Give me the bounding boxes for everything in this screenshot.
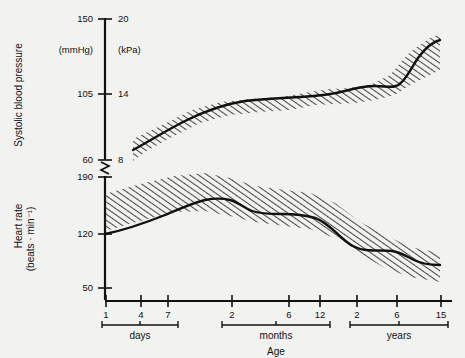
physiology-chart-figure: 150 105 60 20 14 8 (mmHg) (kPa) 190 120 … (0, 0, 465, 358)
xtick-months-12: 12 (315, 309, 326, 320)
xgroup-label-months: months (260, 330, 293, 341)
xgroup-label-days: days (129, 330, 150, 341)
ylabel-heart-rate-units: (beats · min⁻¹) (25, 207, 36, 271)
ytick-hr-120: 120 (77, 228, 93, 239)
xtick-days-4: 4 (138, 309, 143, 320)
ytick-hr-50: 50 (82, 282, 93, 293)
xtick-years-15: 15 (436, 309, 447, 320)
xtick-days-1: 1 (103, 309, 108, 320)
xtick-months-6: 6 (286, 309, 291, 320)
unit-label-kpa: (kPa) (118, 44, 141, 55)
xtick-years-6: 6 (394, 309, 399, 320)
ylabel-heart-rate: Heart rate (13, 203, 24, 248)
xtick-months-2: 2 (229, 309, 234, 320)
unit-label-mmhg: (mmHg) (59, 44, 93, 55)
ytick-bp-kpa-8: 8 (118, 154, 123, 165)
ylabel-systolic-blood-pressure: Systolic blood pressure (13, 43, 24, 147)
xtick-days-7: 7 (165, 309, 170, 320)
ytick-bp-mmhg-60: 60 (82, 154, 93, 165)
ytick-bp-kpa-14: 14 (118, 88, 129, 99)
ytick-bp-mmhg-105: 105 (77, 88, 93, 99)
ytick-hr-190: 190 (77, 171, 93, 182)
xgroup-label-years: years (387, 330, 411, 341)
ytick-bp-kpa-20: 20 (118, 13, 129, 24)
xlabel-age: Age (267, 346, 285, 357)
chart-canvas: 150 105 60 20 14 8 (mmHg) (kPa) 190 120 … (0, 0, 465, 358)
ytick-bp-mmhg-150: 150 (77, 13, 93, 24)
xtick-years-2: 2 (354, 309, 359, 320)
